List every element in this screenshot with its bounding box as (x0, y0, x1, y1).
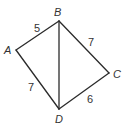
vertex-label-b: B (54, 6, 61, 18)
edge-label-bc: 7 (88, 36, 94, 48)
quadrilateral-diagram: B A C D 5 7 6 7 (0, 0, 128, 127)
edge-label-ab: 5 (34, 22, 40, 34)
edge-label-cd: 6 (87, 93, 93, 105)
edge-bc (59, 21, 109, 73)
edge-label-da: 7 (28, 81, 34, 93)
edge-da (16, 50, 59, 109)
vertex-label-a: A (3, 44, 11, 56)
vertex-label-d: D (55, 113, 63, 125)
edge-cd (59, 73, 109, 109)
vertex-label-c: C (113, 68, 121, 80)
